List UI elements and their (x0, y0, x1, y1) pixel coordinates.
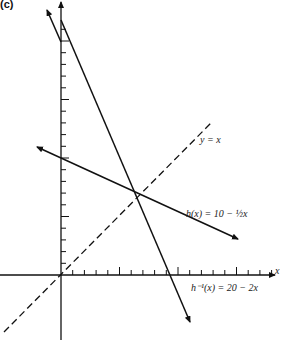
x-axis-label: x (275, 265, 279, 276)
plot-area (0, 0, 281, 352)
axis-ticks (61, 29, 272, 275)
identity-label: y = x (200, 134, 221, 145)
h-inverse-label: h⁻¹(x) = 20 − 2x (191, 282, 258, 293)
h-inverse-line-tail (47, 10, 61, 42)
h-label: h(x) = 10 − ½x (186, 208, 248, 219)
h-inverse-line (61, 20, 190, 322)
h-line-tail (37, 147, 61, 158)
